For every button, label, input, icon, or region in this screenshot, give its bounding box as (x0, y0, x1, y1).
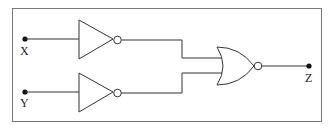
not-gate-y-bubble (114, 89, 122, 97)
output-z-label: Z (305, 72, 312, 84)
nor-gate-icon (217, 47, 254, 85)
output-z-terminal (306, 63, 311, 68)
wire-y-out (122, 73, 223, 93)
input-y-label: Y (20, 97, 29, 109)
not-gate-x-bubble (114, 36, 122, 44)
not-gate-x-icon (79, 20, 113, 59)
diagram-frame (13, 9, 322, 122)
wire-x-out (122, 40, 223, 58)
not-gate-y-icon (79, 73, 113, 112)
logic-circuit-diagram (0, 0, 331, 125)
nor-gate-bubble (254, 62, 262, 70)
input-x-label: X (20, 45, 29, 57)
